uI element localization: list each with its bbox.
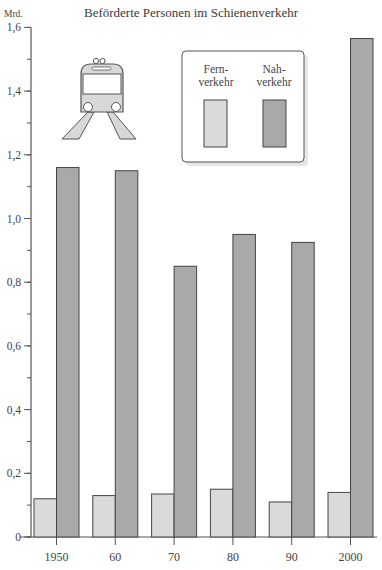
bar-fernverkehr-60 [93,496,116,537]
legend-label-nahverkehr-line1: Nah- [263,63,286,75]
bar-nahverkehr-2000 [351,39,374,537]
bar-fernverkehr-1950 [34,499,57,537]
bar-fernverkehr-2000 [328,492,351,537]
legend-swatch-nahverkehr [263,100,286,147]
y-tick-label: 1,6 [7,21,22,34]
x-tick-label: 90 [286,550,298,564]
legend-label-nahverkehr-line2: verkehr [256,76,291,88]
legend: Fern- verkehr Nah- verkehr [182,51,308,166]
x-tick-label: 1950 [45,550,69,564]
bar-chart: 00,20,40,60,81,01,21,41,6195060708090200… [0,0,382,570]
y-tick-label: 0,2 [7,467,22,480]
bar-fernverkehr-80 [210,489,233,537]
x-tick-label: 80 [227,550,239,564]
bar-fernverkehr-70 [152,494,175,537]
bar-nahverkehr-80 [233,234,256,537]
y-tick-label: 0,6 [7,340,22,353]
x-tick-label: 2000 [339,550,363,564]
legend-label-fernverkehr-line1: Fern- [204,63,229,75]
legend-swatch-fernverkehr [204,100,227,147]
bar-nahverkehr-70 [174,266,197,537]
y-tick-label: 0,8 [7,276,22,289]
bar-fernverkehr-90 [269,502,292,537]
y-tick-label: 0 [15,531,21,543]
bar-nahverkehr-1950 [57,168,80,537]
legend-label-fernverkehr-line2: verkehr [198,76,233,88]
y-tick-label: 1,0 [7,213,22,226]
train-icon [62,58,136,139]
bar-nahverkehr-60 [115,171,138,537]
y-tick-label: 1,2 [7,149,22,162]
bar-nahverkehr-90 [292,242,315,537]
y-tick-label: 0,4 [7,404,22,417]
x-tick-label: 60 [109,550,121,564]
y-tick-label: 1,4 [7,85,22,98]
x-tick-label: 70 [168,550,180,564]
